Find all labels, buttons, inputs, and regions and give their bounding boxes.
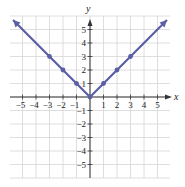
data-point <box>47 54 52 59</box>
data-point <box>101 81 106 86</box>
x-tick-label: −4 <box>29 100 39 110</box>
y-tick-label: 2 <box>82 65 87 75</box>
data-point <box>128 54 133 59</box>
x-axis-title: x <box>173 91 179 102</box>
y-tick-label: −5 <box>76 160 86 170</box>
data-point <box>115 68 120 73</box>
x-tick-label: 4 <box>142 100 147 110</box>
x-tick-label: 5 <box>155 100 160 110</box>
x-tick-label: −5 <box>16 100 26 110</box>
x-tick-label: 3 <box>128 100 133 110</box>
x-tick-label: −2 <box>56 100 66 110</box>
y-tick-label: 1 <box>82 79 87 89</box>
y-tick-label: −3 <box>76 133 86 143</box>
data-point <box>74 81 79 86</box>
x-tick-label: 1 <box>101 100 106 110</box>
y-tick-label: 4 <box>82 38 87 48</box>
y-tick-label: 3 <box>82 52 87 62</box>
y-tick-label: −1 <box>76 106 86 116</box>
data-point <box>88 95 93 100</box>
y-tick-label: −4 <box>76 146 86 156</box>
y-axis-title: y <box>85 3 91 14</box>
data-point <box>61 68 66 73</box>
x-tick-label: −3 <box>43 100 53 110</box>
y-tick-label: −2 <box>76 119 86 129</box>
coordinate-plane: −5−4−3−2−112345 −5−4−3−2−112345 x y <box>0 0 185 187</box>
x-tick-label: 2 <box>115 100 120 110</box>
y-tick-label: 5 <box>82 25 87 35</box>
